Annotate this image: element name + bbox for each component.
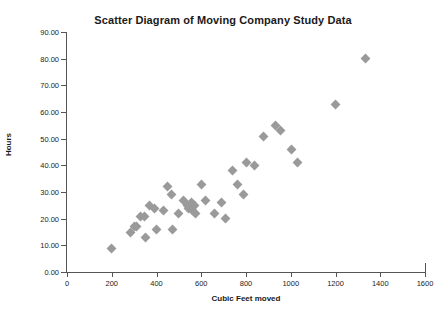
x-axis-tick-label: 800	[226, 279, 266, 288]
x-axis-tick	[67, 272, 68, 277]
data-point	[152, 224, 162, 234]
chart-title: Scatter Diagram of Moving Company Study …	[0, 14, 446, 26]
x-axis-tick-label: 600	[181, 279, 221, 288]
data-point	[140, 232, 150, 242]
x-axis-tick	[380, 272, 381, 277]
y-axis-tick-label: 20.00	[19, 214, 59, 223]
data-point	[201, 195, 211, 205]
x-axis-tick-label: 1600	[405, 279, 445, 288]
data-point	[250, 160, 260, 170]
x-axis-tick	[112, 272, 113, 277]
data-point	[210, 208, 220, 218]
data-point	[158, 206, 168, 216]
data-point	[216, 198, 226, 208]
y-axis-tick-label: 0.00	[19, 268, 59, 277]
y-axis-tick-label: 70.00	[19, 81, 59, 90]
x-axis-tick-label: 400	[137, 279, 177, 288]
x-axis-tick	[246, 272, 247, 277]
data-point	[228, 166, 238, 176]
data-point	[331, 99, 341, 109]
x-axis-tick	[336, 272, 337, 277]
y-axis-tick-label: 50.00	[19, 134, 59, 143]
data-point	[174, 208, 184, 218]
y-axis-tick-label: 90.00	[19, 28, 59, 37]
x-axis-title: Cubic Feet moved	[67, 294, 425, 303]
y-axis-tick-label: 30.00	[19, 188, 59, 197]
data-point	[196, 179, 206, 189]
x-axis-tick-label: 200	[92, 279, 132, 288]
data-point	[167, 224, 177, 234]
y-axis-tick-label: 10.00	[19, 241, 59, 250]
data-point	[259, 131, 269, 141]
y-axis-title: Hours	[4, 115, 13, 175]
y-axis-tick-label: 40.00	[19, 161, 59, 170]
data-point	[361, 54, 371, 64]
x-axis-tick	[201, 272, 202, 277]
data-point	[221, 214, 231, 224]
y-axis-tick-label: 60.00	[19, 108, 59, 117]
data-point	[107, 243, 117, 253]
data-point	[232, 179, 242, 189]
plot-area	[67, 32, 425, 272]
data-point	[287, 144, 297, 154]
y-axis-tick-label: 80.00	[19, 54, 59, 63]
x-axis-tick-label: 0	[47, 279, 87, 288]
x-axis-tick-label: 1400	[360, 279, 400, 288]
data-point	[276, 126, 286, 136]
x-axis-tick	[291, 272, 292, 277]
data-point	[239, 190, 249, 200]
x-axis-tick	[157, 272, 158, 277]
x-axis-tick-label: 1000	[271, 279, 311, 288]
x-axis-tick	[425, 272, 426, 277]
data-point	[293, 158, 303, 168]
x-axis-tick-label: 1200	[316, 279, 356, 288]
scatter-chart: Scatter Diagram of Moving Company Study …	[0, 0, 446, 322]
